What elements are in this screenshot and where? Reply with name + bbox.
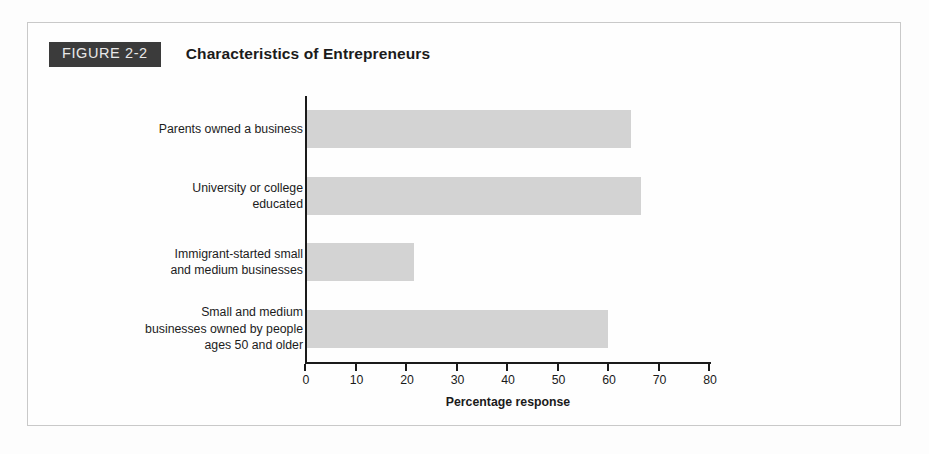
- x-axis-tick: [456, 364, 458, 371]
- bar-parents-owned-business: [307, 110, 631, 148]
- x-axis-tick-label: 40: [488, 373, 528, 387]
- x-axis-tick: [607, 364, 609, 371]
- x-axis-tick: [355, 364, 357, 371]
- bar-immigrant-started-businesses: [307, 243, 414, 281]
- y-axis-line: [305, 96, 307, 362]
- x-axis-tick-label: 20: [387, 373, 427, 387]
- x-axis-tick-label: 50: [539, 373, 579, 387]
- x-axis-tick: [304, 364, 306, 371]
- category-label-businesses-owned-50-and-older: Small and medium businesses owned by peo…: [73, 304, 303, 353]
- x-axis-line: [305, 362, 711, 364]
- bar-businesses-owned-50-and-older: [307, 310, 608, 348]
- bar-chart-plot: Parents owned a business University or c…: [28, 23, 902, 427]
- x-axis-tick-label: 10: [337, 373, 377, 387]
- x-axis-tick: [708, 364, 710, 371]
- category-label-university-college-educated: University or college educated: [73, 180, 303, 212]
- x-axis-tick: [506, 364, 508, 371]
- x-axis-tick: [405, 364, 407, 371]
- bar-university-college-educated: [307, 177, 641, 215]
- x-axis-tick-label: 60: [589, 373, 629, 387]
- x-axis-tick-label: 0: [286, 373, 326, 387]
- x-axis-tick-label: 30: [438, 373, 478, 387]
- x-axis-tick-label: 70: [640, 373, 680, 387]
- x-axis-tick-label: 80: [690, 373, 730, 387]
- x-axis-tick: [658, 364, 660, 371]
- category-label-parents-owned-business: Parents owned a business: [73, 121, 303, 137]
- figure-frame: FIGURE 2-2 Characteristics of Entreprene…: [27, 22, 901, 426]
- x-axis-title: Percentage response: [305, 395, 711, 409]
- scanned-page: FIGURE 2-2 Characteristics of Entreprene…: [0, 0, 929, 454]
- x-axis-tick: [557, 364, 559, 371]
- category-label-immigrant-started-businesses: Immigrant-started small and medium busin…: [73, 246, 303, 278]
